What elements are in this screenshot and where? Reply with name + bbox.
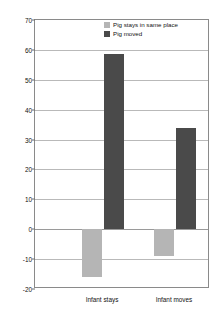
bar <box>104 54 124 229</box>
bar-chart-figure: % increase in looking on the test trials… <box>0 0 222 328</box>
bar <box>154 229 174 256</box>
x-axis-category-label: Infant moves <box>156 296 193 303</box>
y-axis-tick-mark <box>32 139 35 140</box>
y-axis-tick-label: -20 <box>23 286 32 293</box>
y-axis-tick-mark <box>32 199 35 200</box>
legend-item: Pig stays in same place <box>104 21 178 28</box>
y-axis-tick-mark <box>32 20 35 21</box>
chart-legend: Pig stays in same placePig moved <box>104 21 178 37</box>
gridline <box>35 259 208 260</box>
y-axis-tick-mark <box>32 229 35 230</box>
legend-label: Pig stays in same place <box>113 21 178 28</box>
gridline <box>35 50 208 51</box>
legend-item: Pig moved <box>104 30 178 37</box>
y-axis-tick-mark <box>32 169 35 170</box>
legend-swatch <box>104 31 110 37</box>
y-axis-tick-label: 0 <box>28 226 32 233</box>
x-axis-category-label: Infant stays <box>86 296 119 303</box>
y-axis-tick-label: 40 <box>25 106 32 113</box>
y-axis-tick-label: 50 <box>25 76 32 83</box>
y-axis-tick-label: 70 <box>25 17 32 24</box>
y-axis-tick-label: 60 <box>25 46 32 53</box>
legend-swatch <box>104 22 110 28</box>
y-axis-tick-mark <box>32 259 35 260</box>
y-axis-tick-label: 20 <box>25 166 32 173</box>
bar <box>82 229 102 277</box>
y-axis-tick-label: -10 <box>23 256 32 263</box>
gridline <box>35 229 208 230</box>
y-axis-tick-mark <box>32 289 35 290</box>
y-axis-tick-mark <box>32 79 35 80</box>
y-axis-tick-label: 10 <box>25 196 32 203</box>
plot-area: 706050403020100-10-20 <box>34 19 209 288</box>
y-axis-tick-mark <box>32 109 35 110</box>
y-axis-tick-mark <box>32 49 35 50</box>
y-axis-tick-label: 30 <box>25 136 32 143</box>
bar <box>176 128 196 230</box>
legend-label: Pig moved <box>113 30 142 37</box>
